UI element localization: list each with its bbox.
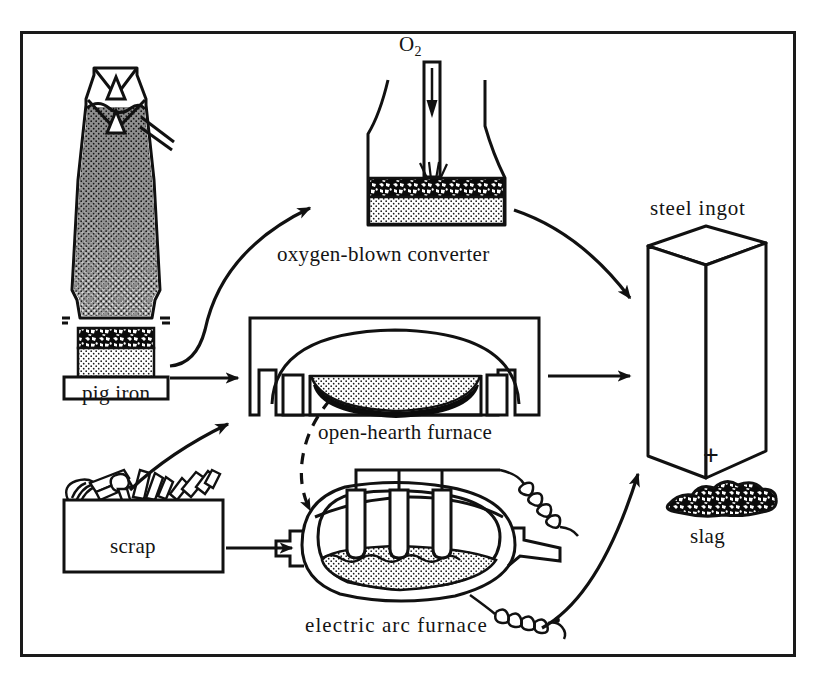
molten-pig-iron <box>78 348 154 377</box>
oxygen-lance <box>420 62 447 179</box>
oxygen-input-label: O2 <box>399 32 422 60</box>
steelmaking-diagram: O2 pig iron oxygen-blown converter open-… <box>0 0 817 679</box>
eaf-electrodes <box>347 490 451 558</box>
oxygen-converter-illustration <box>368 62 505 225</box>
steel-ingot-label: steel ingot <box>650 196 746 221</box>
open-hearth-right-port <box>487 375 507 415</box>
plus-sign: + <box>703 440 719 471</box>
scrap-label: scrap <box>110 534 156 559</box>
pig-iron-label: pig iron <box>82 381 150 406</box>
diagram-canvas <box>0 0 817 679</box>
arrow-pig-iron-to-converter <box>170 208 310 366</box>
electric-arc-furnace-label: electric arc furnace <box>305 613 488 638</box>
open-hearth-left-port <box>283 375 303 415</box>
converter-slag-layer <box>369 178 504 197</box>
open-hearth-furnace-label: open-hearth furnace <box>318 420 492 445</box>
converter-metal-bath <box>369 197 504 224</box>
oxygen-blown-converter-label: oxygen-blown converter <box>277 242 489 267</box>
open-hearth-illustration <box>250 318 539 417</box>
blast-furnace-illustration <box>62 68 174 399</box>
arrow-eaf-to-ingot <box>542 474 638 628</box>
slag-label: slag <box>690 524 725 549</box>
blast-furnace-slag-band <box>78 328 154 348</box>
arrow-converter-to-ingot <box>514 210 630 298</box>
slag-lump-illustration <box>667 482 776 516</box>
